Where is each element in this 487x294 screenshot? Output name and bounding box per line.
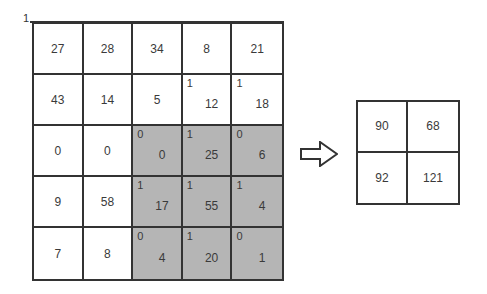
cell-value: 34 — [150, 42, 163, 56]
cell-value: 7 — [54, 247, 61, 261]
matrix-cell: 06 — [232, 126, 282, 177]
matrix-cell: 01 — [232, 228, 282, 279]
cell-value: 9 — [54, 195, 61, 209]
cell-value: 1 — [259, 251, 266, 265]
cell-weight-label: 1 — [236, 179, 242, 191]
cell-value: 18 — [256, 97, 269, 111]
matrix-cell: 117 — [133, 177, 183, 228]
output-cell: 68 — [408, 102, 458, 153]
cell-value: 0 — [104, 144, 111, 158]
matrix-cell: 155 — [183, 177, 233, 228]
cell-value: 27 — [51, 42, 64, 56]
cell-value: 43 — [51, 93, 64, 107]
matrix-cell: 125 — [183, 126, 233, 177]
matrix-cell: 58 — [84, 177, 134, 228]
matrix-cell: 112 — [183, 75, 233, 126]
matrix-cell: 8 — [84, 228, 134, 279]
cell-value: 12 — [205, 97, 218, 111]
cell-weight-label: 0 — [137, 230, 143, 242]
matrix-cell: 5 — [133, 75, 183, 126]
cell-weight-label: 1 — [187, 77, 193, 89]
output-matrix: 906892121 — [356, 100, 460, 205]
cell-weight-label: 1 — [187, 179, 193, 191]
matrix-cell: 14 — [232, 177, 282, 228]
cell-value: 28 — [101, 42, 114, 56]
cell-value: 55 — [205, 199, 218, 213]
matrix-cell: 27 — [34, 24, 84, 75]
cell-weight-label: 0 — [236, 128, 242, 140]
matrix-cell: 120 — [183, 228, 233, 279]
corner-label: 1 — [23, 12, 29, 24]
matrix-cell: 14 — [84, 75, 134, 126]
cell-value: 21 — [251, 42, 264, 56]
cell-value: 4 — [159, 251, 166, 265]
cell-weight-label: 1 — [137, 179, 143, 191]
cell-value: 8 — [104, 247, 111, 261]
cell-value: 4 — [259, 199, 266, 213]
cell-value: 0 — [54, 144, 61, 158]
matrix-cell: 21 — [232, 24, 282, 75]
cell-weight-label: 1 — [187, 128, 193, 140]
right-arrow-icon — [300, 141, 338, 167]
matrix-cell: 00 — [133, 126, 183, 177]
matrix-cell: 34 — [133, 24, 183, 75]
cell-value: 5 — [154, 93, 161, 107]
cell-weight-label: 0 — [236, 230, 242, 242]
cell-value: 6 — [259, 148, 266, 162]
output-cell: 92 — [358, 153, 408, 204]
cell-value: 25 — [205, 148, 218, 162]
matrix-cell: 28 — [84, 24, 134, 75]
matrix-cell: 43 — [34, 75, 84, 126]
input-matrix: 2728348214314511211800001250695811715514… — [32, 22, 284, 281]
matrix-cell: 7 — [34, 228, 84, 279]
cell-weight-label: 1 — [236, 77, 242, 89]
matrix-cell: 04 — [133, 228, 183, 279]
cell-value: 58 — [101, 195, 114, 209]
matrix-cell: 0 — [34, 126, 84, 177]
cell-value: 8 — [203, 42, 210, 56]
output-cell: 90 — [358, 102, 408, 153]
matrix-cell: 118 — [232, 75, 282, 126]
cell-value: 14 — [101, 93, 114, 107]
matrix-cell: 0 — [84, 126, 134, 177]
cell-value: 0 — [159, 148, 166, 162]
matrix-cell: 9 — [34, 177, 84, 228]
cell-weight-label: 1 — [187, 230, 193, 242]
matrix-cell: 8 — [183, 24, 233, 75]
cell-value: 20 — [205, 251, 218, 265]
cell-value: 17 — [155, 199, 168, 213]
output-cell: 121 — [408, 153, 458, 204]
cell-weight-label: 0 — [137, 128, 143, 140]
